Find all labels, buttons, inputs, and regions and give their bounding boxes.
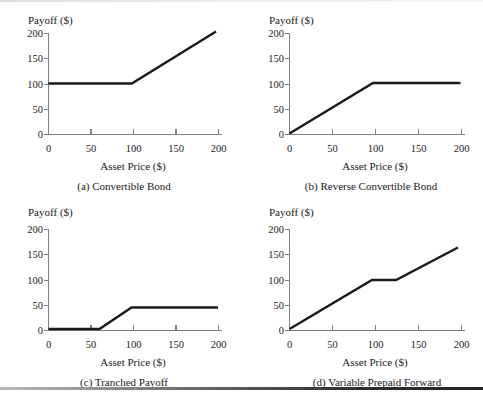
panel-b-xtick-50: 50: [327, 143, 338, 154]
bottom-horizontal-rule: [0, 387, 483, 390]
panel-b-ytick-100: 100: [268, 79, 284, 90]
panel-b-xtick-150: 150: [411, 143, 427, 154]
panel-a-caption: (a) Convertible Bond: [77, 180, 171, 193]
payoff-diagrams-figure: Payoff ($) 200 150 100 50 0 0 50 100 150…: [0, 0, 483, 394]
panel-b-xtick-100: 100: [368, 143, 384, 154]
panel-a-ytick-50: 50: [33, 104, 44, 115]
panel-c-xlabel: Asset Price ($): [100, 356, 166, 369]
panel-b-reverse-convertible-bond: Payoff ($) 200 150 100 50 0 0 50 100 150…: [241, 0, 482, 197]
panel-a-xtick-200: 200: [211, 143, 227, 154]
panel-a-xlabel: Asset Price ($): [100, 160, 166, 173]
panel-c-tranched-payoff: Payoff ($) 200 150 100 50 0 0 50 100 150…: [0, 196, 241, 393]
panel-c-ytick-0: 0: [38, 325, 43, 336]
panel-a-xtick-0: 0: [46, 143, 51, 154]
panel-d-ytick-150: 150: [268, 249, 284, 260]
panel-d-ylabel: Payoff ($): [269, 206, 314, 219]
panel-c-xtick-50: 50: [86, 339, 97, 350]
panel-b-ytick-50: 50: [274, 104, 285, 115]
panel-a-svg: Payoff ($) 200 150 100 50 0 0 50 100 150…: [0, 0, 241, 197]
panel-d-xtick-100: 100: [368, 339, 384, 350]
panel-d-ytick-200: 200: [268, 224, 284, 235]
panel-d-svg: Payoff ($) 200 150 100 50 0 0 50 100 150…: [241, 196, 483, 394]
panel-d-xtick-0: 0: [287, 339, 292, 350]
panel-a-data-line: [49, 32, 217, 84]
panel-b-ytick-150: 150: [268, 53, 284, 64]
panel-a-ytick-150: 150: [27, 53, 43, 64]
panel-d-xtick-50: 50: [327, 339, 338, 350]
panel-c-svg: Payoff ($) 200 150 100 50 0 0 50 100 150…: [0, 196, 241, 394]
panel-a-ytick-100: 100: [27, 79, 43, 90]
panel-c-xtick-150: 150: [168, 339, 184, 350]
panel-c-ytick-150: 150: [27, 249, 43, 260]
panel-d-ytick-50: 50: [274, 300, 285, 311]
panel-d-ytick-100: 100: [268, 275, 284, 286]
panel-c-xtick-100: 100: [126, 339, 142, 350]
panel-a-ytick-200: 200: [27, 28, 43, 39]
panel-b-data-line: [290, 83, 461, 134]
panel-c-xtick-0: 0: [46, 339, 51, 350]
panel-c-ytick-50: 50: [33, 300, 44, 311]
panel-a-xtick-100: 100: [126, 143, 142, 154]
panel-c-ytick-100: 100: [27, 275, 43, 286]
panel-d-data-line: [290, 248, 459, 330]
panel-d-ytick-0: 0: [279, 325, 284, 336]
panel-c-ytick-200: 200: [27, 224, 43, 235]
panel-b-ytick-0: 0: [279, 129, 284, 140]
panel-b-svg: Payoff ($) 200 150 100 50 0 0 50 100 150…: [241, 0, 483, 197]
panel-b-xlabel: Asset Price ($): [342, 160, 408, 173]
panel-d-xtick-150: 150: [411, 339, 427, 350]
panel-c-ylabel: Payoff ($): [28, 206, 73, 219]
panel-a-xtick-50: 50: [86, 143, 97, 154]
panel-b-xtick-0: 0: [287, 143, 292, 154]
panel-d-xtick-200: 200: [454, 339, 470, 350]
panel-a-convertible-bond: Payoff ($) 200 150 100 50 0 0 50 100 150…: [0, 0, 241, 197]
panel-b-ytick-200: 200: [268, 28, 284, 39]
panel-c-xtick-200: 200: [211, 339, 227, 350]
panel-b-xtick-200: 200: [454, 143, 470, 154]
panel-d-variable-prepaid-forward: Payoff ($) 200 150 100 50 0 0 50 100 150…: [241, 196, 482, 393]
panel-a-ylabel: Payoff ($): [28, 14, 73, 27]
panel-b-ylabel: Payoff ($): [269, 14, 314, 27]
panel-a-xtick-150: 150: [168, 143, 184, 154]
panel-b-caption: (b) Reverse Convertible Bond: [305, 180, 438, 193]
panel-a-ytick-0: 0: [38, 129, 43, 140]
panel-d-xlabel: Asset Price ($): [342, 356, 408, 369]
